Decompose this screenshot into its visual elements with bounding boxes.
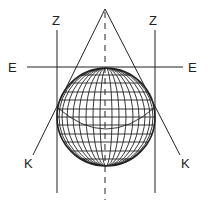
label-k-left: K — [24, 156, 33, 171]
label-e-left: E — [8, 60, 17, 75]
tangent-circle — [58, 108, 154, 129]
label-z-right: Z — [149, 13, 157, 28]
label-e-right: E — [188, 60, 197, 75]
globe-cone-projection-diagram: Z Z E E K K — [0, 0, 208, 210]
label-k-right: K — [181, 156, 190, 171]
globe — [50, 68, 162, 166]
label-z-left: Z — [52, 13, 60, 28]
